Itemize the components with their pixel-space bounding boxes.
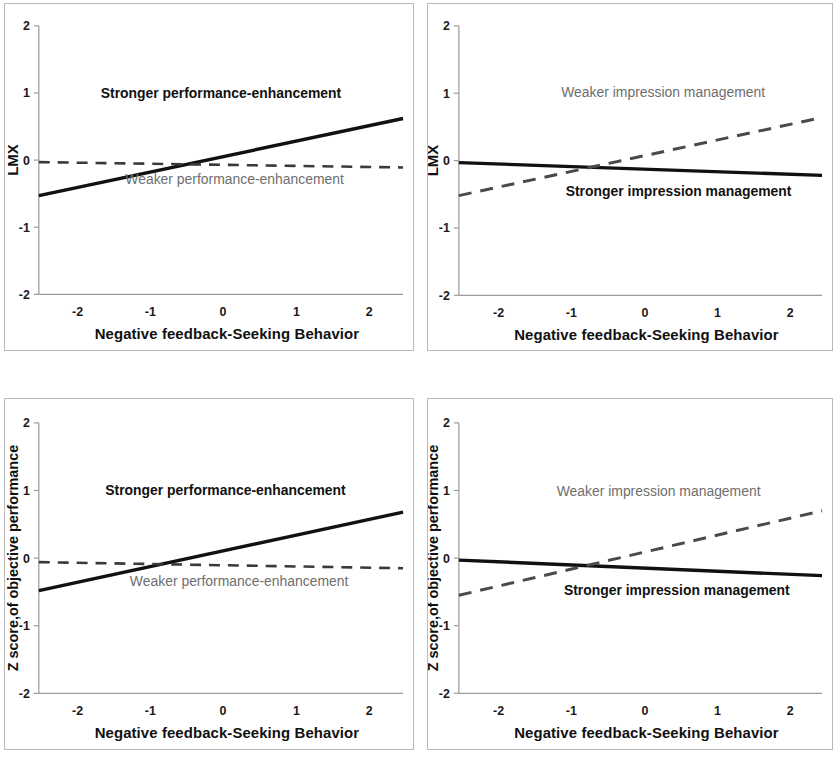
y-axis-title: LMX xyxy=(5,144,21,176)
x-axis-title: Negative feedback-Seeking Behavior xyxy=(95,325,360,342)
x-tick-label: 1 xyxy=(293,305,300,319)
series-line-solid xyxy=(459,560,822,576)
x-tick-label: 1 xyxy=(293,704,300,718)
y-tick-label: 2 xyxy=(443,416,450,430)
x-tick-label: -1 xyxy=(145,305,156,319)
x-axis-title: Negative feedback-Seeking Behavior xyxy=(95,724,360,741)
x-tick-label: 0 xyxy=(641,306,648,320)
x-tick-label: 2 xyxy=(366,305,373,319)
y-tick-label: 1 xyxy=(443,87,450,101)
x-tick-label: -1 xyxy=(566,704,577,718)
y-tick-label: 1 xyxy=(23,484,30,498)
series-label-dashed: Weaker performance-enhancement xyxy=(125,171,344,187)
y-tick-label: 1 xyxy=(23,86,30,100)
x-axis-title: Negative feedback-Seeking Behavior xyxy=(514,724,779,741)
series-label-solid: Stronger impression management xyxy=(564,582,790,598)
panel-top-right: 210-1-2-2-1012Negative feedback-Seeking … xyxy=(427,3,833,351)
y-tick-label: -1 xyxy=(439,221,450,235)
panel-top-left: 210-1-2-2-1012Negative feedback-Seeking … xyxy=(4,3,414,351)
x-tick-label: 0 xyxy=(219,704,226,718)
y-tick-label: 0 xyxy=(23,552,30,566)
series-label-dashed: Weaker performance-enhancement xyxy=(130,573,349,589)
series-label-dashed: Weaker impression management xyxy=(557,483,761,499)
x-tick-label: -1 xyxy=(566,306,577,320)
y-tick-label: 0 xyxy=(23,154,30,168)
x-tick-label: 2 xyxy=(787,306,794,320)
y-axis-title: Z score,of objective performance xyxy=(428,445,441,671)
x-tick-label: -2 xyxy=(493,306,504,320)
x-tick-label: 2 xyxy=(366,704,373,718)
y-axis-title: LMX xyxy=(428,145,441,177)
y-tick-label: 1 xyxy=(443,484,450,498)
figure-four-panel-interaction-plots: 210-1-2-2-1012Negative feedback-Seeking … xyxy=(0,0,837,757)
series-label-solid: Stronger performance-enhancement xyxy=(101,85,342,101)
x-axis-title: Negative feedback-Seeking Behavior xyxy=(514,327,779,343)
y-tick-label: 2 xyxy=(23,416,30,430)
y-tick-label: 0 xyxy=(443,552,450,566)
y-tick-label: 2 xyxy=(23,19,30,33)
x-tick-label: -2 xyxy=(493,704,504,718)
series-line-dashed xyxy=(39,562,403,568)
series-line-dashed xyxy=(39,162,403,167)
panel-bottom-right: 210-1-2-2-1012Negative feedback-Seeking … xyxy=(427,398,833,750)
y-axis-title: Z score,of objective performance xyxy=(5,445,21,671)
series-line-solid xyxy=(459,163,822,176)
x-tick-label: -2 xyxy=(72,305,83,319)
x-tick-label: -1 xyxy=(145,704,156,718)
x-tick-label: 2 xyxy=(787,704,794,718)
y-tick-label: -1 xyxy=(19,221,30,235)
y-tick-label: -2 xyxy=(19,288,30,302)
y-tick-label: -2 xyxy=(439,289,450,303)
series-label-dashed: Weaker impression management xyxy=(561,84,765,100)
y-tick-label: -2 xyxy=(19,687,30,701)
x-tick-label: 1 xyxy=(714,704,721,718)
y-tick-label: -2 xyxy=(439,687,450,701)
y-tick-label: 0 xyxy=(443,154,450,168)
x-tick-label: -2 xyxy=(72,704,83,718)
x-tick-label: 0 xyxy=(641,704,648,718)
x-tick-label: 0 xyxy=(219,305,226,319)
x-tick-label: 1 xyxy=(714,306,721,320)
panel-bottom-left: 210-1-2-2-1012Negative feedback-Seeking … xyxy=(4,398,414,750)
series-label-solid: Stronger performance-enhancement xyxy=(105,482,346,498)
series-label-solid: Stronger impression management xyxy=(566,183,792,199)
y-tick-label: 2 xyxy=(443,19,450,33)
